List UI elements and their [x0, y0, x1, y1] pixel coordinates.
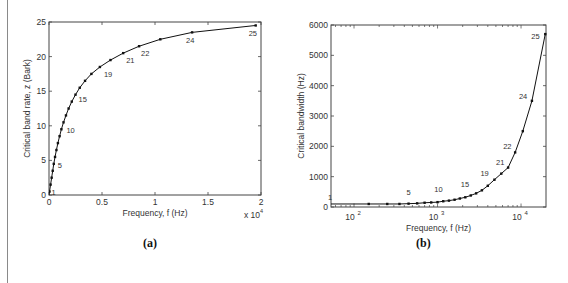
data-point-marker — [58, 135, 60, 137]
x-tick-label: 10 — [512, 212, 522, 222]
plot-area — [331, 25, 546, 207]
band-number-label: 1 — [52, 188, 56, 197]
data-point-marker — [514, 151, 516, 153]
y-tick-label: 6000 — [309, 20, 328, 30]
y-tick-label: 5 — [41, 155, 46, 165]
band-number-label: 25 — [249, 29, 257, 38]
x-axis-label: Frequency, f (Hz) — [406, 223, 471, 233]
data-point-marker — [60, 128, 62, 130]
x-tick-label: 1 — [153, 197, 158, 207]
band-number-label: 25 — [531, 32, 539, 41]
data-point-marker — [71, 100, 73, 102]
band-number-label: 1 — [328, 193, 332, 202]
data-point-marker — [430, 201, 432, 203]
data-point-marker — [531, 100, 533, 102]
y-tick-label: 3000 — [309, 111, 328, 121]
y-tick-label: 1000 — [309, 172, 328, 182]
data-point-marker — [159, 38, 161, 40]
y-tick-label: 15 — [37, 86, 47, 96]
data-point-marker — [436, 201, 438, 203]
data-point-marker — [493, 179, 495, 181]
y-tick-label: 0 — [41, 190, 46, 200]
data-point-marker — [481, 189, 483, 191]
x-tick-label: 0.5 — [96, 197, 108, 207]
x-tick-exponent: 4 — [525, 210, 529, 216]
data-point-marker — [90, 73, 92, 75]
band-number-label: 22 — [141, 49, 149, 58]
data-point-marker — [475, 192, 477, 194]
data-point-marker — [522, 130, 524, 132]
band-number-label: 10 — [434, 185, 442, 194]
data-point-marker — [464, 196, 466, 198]
data-point-marker — [99, 66, 101, 68]
data-point-marker — [62, 121, 64, 123]
data-point-marker — [423, 202, 425, 204]
chart-b-critical-bandwidth: 0100020003000400050006000102103104Freque… — [296, 20, 546, 233]
data-point-marker — [79, 87, 81, 89]
data-point-marker — [368, 203, 370, 205]
band-number-label: 22 — [503, 142, 511, 151]
data-point-marker — [407, 202, 409, 204]
y-tick-label: 25 — [37, 17, 47, 27]
data-point-marker — [84, 80, 86, 82]
band-number-label: 24 — [186, 36, 194, 45]
data-point-marker — [398, 203, 400, 205]
caption-b: (b) — [416, 236, 431, 251]
x-multiplier-label: x 10 — [244, 210, 260, 220]
data-point-marker — [53, 163, 55, 165]
x-tick-exponent: 2 — [358, 210, 362, 216]
x-axis-label: Frequency, f (Hz) — [122, 208, 187, 218]
x-tick-label: 10 — [345, 212, 355, 222]
band-number-label: 10 — [66, 126, 74, 135]
data-point-marker — [544, 33, 546, 35]
data-point-marker — [416, 202, 418, 204]
data-point-marker — [255, 24, 257, 26]
band-number-label: 15 — [79, 95, 87, 104]
x-tick-label: 0 — [47, 197, 52, 207]
data-point-marker — [191, 31, 193, 33]
data-curve — [329, 34, 545, 204]
data-point-marker — [448, 199, 450, 201]
band-number-label: 19 — [104, 70, 112, 79]
chart-a-critical-band-rate: 051015202500.511.52Frequency, f (Hz)Crit… — [22, 17, 264, 220]
y-tick-label: 10 — [37, 121, 47, 131]
band-number-label: 15 — [461, 180, 469, 189]
band-number-label: 21 — [496, 158, 504, 167]
plot-area — [49, 22, 261, 195]
data-point-marker — [507, 166, 509, 168]
band-number-label: 19 — [480, 169, 488, 178]
data-point-marker — [109, 59, 111, 61]
y-tick-label: 2000 — [309, 141, 328, 151]
band-number-label: 5 — [407, 188, 411, 197]
y-tick-label: 5000 — [309, 50, 328, 60]
x-tick-exponent: 3 — [441, 210, 445, 216]
data-point-marker — [453, 199, 455, 201]
y-tick-label: 4000 — [309, 81, 328, 91]
data-point-marker — [49, 183, 51, 185]
data-point-marker — [65, 114, 67, 116]
band-number-label: 21 — [126, 56, 134, 65]
data-point-marker — [487, 185, 489, 187]
data-point-marker — [442, 200, 444, 202]
x-tick-label: 1.5 — [202, 197, 214, 207]
data-point-marker — [459, 197, 461, 199]
y-tick-label: 20 — [37, 52, 47, 62]
x-tick-label: 10 — [429, 212, 439, 222]
data-point-marker — [386, 203, 388, 205]
figure-canvas: 051015202500.511.52Frequency, f (Hz)Crit… — [0, 0, 568, 283]
caption-a: (a) — [143, 236, 157, 251]
data-curve — [49, 25, 256, 195]
data-point-marker — [122, 52, 124, 54]
y-axis-label: Critical band rate, z (Bark) — [22, 59, 32, 158]
data-point-marker — [50, 177, 52, 179]
data-point-marker — [500, 172, 502, 174]
data-point-marker — [138, 45, 140, 47]
data-point-marker — [74, 93, 76, 95]
data-point-marker — [57, 142, 59, 144]
data-point-marker — [55, 149, 57, 151]
data-point-marker — [470, 194, 472, 196]
data-point-marker — [52, 170, 54, 172]
y-tick-label: 0 — [323, 202, 328, 212]
band-number-label: 24 — [519, 92, 527, 101]
x-multiplier-exponent: 4 — [260, 208, 263, 214]
